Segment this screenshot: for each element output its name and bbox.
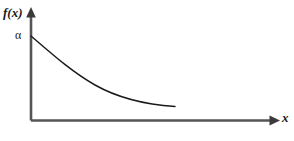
x-axis-label: x <box>282 111 289 124</box>
figure-container: f(x) x α <box>0 0 294 141</box>
y-axis-label: f(x) <box>3 6 23 19</box>
x-axis-arrowhead <box>270 116 281 126</box>
alpha-intercept-label: α <box>15 29 21 41</box>
plot-canvas <box>0 0 294 141</box>
decay-curve <box>31 36 175 107</box>
y-axis-arrowhead <box>26 7 36 18</box>
